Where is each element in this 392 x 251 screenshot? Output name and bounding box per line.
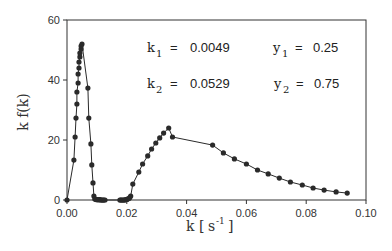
annot-y1-value: 0.25 — [313, 40, 338, 55]
data-point — [76, 71, 81, 76]
x-tick-label: 0.10 — [355, 207, 376, 219]
annot-k2-value: 0.0529 — [190, 76, 230, 91]
x-axis-label-bracket-open: [ — [199, 218, 204, 234]
data-point — [345, 191, 350, 196]
annot-k1-symbol: k — [147, 40, 155, 55]
data-point — [157, 135, 162, 140]
data-point — [334, 189, 339, 194]
y-axis-ticks: 0204060 — [48, 14, 67, 206]
x-tick-label: 0.06 — [236, 207, 257, 219]
annot-y2-eq: = — [296, 76, 304, 91]
data-point — [86, 116, 91, 121]
x-axis-label-exponent: -1 — [216, 216, 225, 226]
data-point — [288, 179, 293, 184]
data-point — [149, 146, 154, 151]
x-axis-label: k [ s -1 ] — [186, 216, 233, 234]
data-point — [277, 176, 282, 181]
annot-y1-symbol: y — [272, 40, 281, 55]
data-series — [64, 41, 349, 202]
annotation-y2: y 2 = 0.75 — [273, 76, 339, 95]
data-point — [88, 141, 93, 146]
data-point — [130, 182, 135, 187]
x-axis-label-unit: s — [208, 218, 215, 234]
annotation-y1: y 1 = 0.25 — [272, 40, 338, 59]
data-point — [140, 161, 145, 166]
y-tick-label: 0 — [54, 194, 60, 206]
data-point — [73, 134, 78, 139]
x-axis-label-bracket-close: ] — [228, 218, 233, 234]
annot-k2-sub: 2 — [156, 84, 162, 95]
annot-y2-symbol: y — [273, 76, 282, 91]
data-point — [76, 59, 81, 64]
data-point — [71, 158, 76, 163]
data-point — [244, 161, 249, 166]
annot-y1-sub: 1 — [282, 48, 288, 59]
annot-y2-value: 0.75 — [314, 76, 339, 91]
annot-k1-value: 0.0049 — [190, 40, 230, 55]
data-point — [128, 194, 133, 199]
data-point — [76, 80, 81, 85]
data-point — [166, 125, 171, 130]
data-point — [232, 156, 237, 161]
data-point — [322, 188, 327, 193]
data-point — [89, 162, 94, 167]
data-point — [76, 65, 81, 70]
x-axis-label-k: k — [186, 218, 195, 234]
annot-k2-symbol: k — [147, 76, 155, 91]
annotation-k1: k 1 = 0.0049 — [147, 40, 230, 59]
data-point — [266, 171, 271, 176]
data-point — [311, 185, 316, 190]
data-point — [161, 131, 166, 136]
y-axis-label: k f(k) — [15, 93, 31, 131]
y-tick-label: 60 — [48, 14, 60, 26]
data-point — [210, 143, 215, 148]
data-point — [90, 180, 95, 185]
data-point — [102, 197, 107, 202]
data-point — [74, 89, 79, 94]
y-tick-label: 40 — [48, 74, 60, 86]
y-tick-label: 20 — [48, 134, 60, 146]
annot-k1-eq: = — [170, 40, 178, 55]
series-line — [67, 44, 347, 200]
data-point — [136, 170, 141, 175]
annotation-k2: k 2 = 0.0529 — [147, 76, 230, 95]
data-point — [74, 101, 79, 106]
data-point — [73, 116, 78, 121]
annot-k2-eq: = — [170, 76, 178, 91]
data-point — [300, 182, 305, 187]
data-point — [85, 86, 90, 91]
data-point — [255, 167, 260, 172]
chart: 0.000.020.040.060.080.10 0204060 k [ s -… — [0, 0, 392, 251]
annot-y2-sub: 2 — [283, 84, 289, 95]
x-tick-label: 0.02 — [116, 207, 137, 219]
data-point — [64, 197, 69, 202]
x-tick-label: 0.00 — [56, 207, 77, 219]
data-point — [170, 134, 175, 139]
data-point — [221, 150, 226, 155]
data-point — [79, 41, 84, 46]
annot-k1-sub: 1 — [156, 48, 162, 59]
data-point — [153, 140, 158, 145]
annot-y1-eq: = — [295, 40, 303, 55]
annotation-block: k 1 = 0.0049 y 1 = 0.25 k 2 = 0.0529 y 2… — [147, 40, 339, 95]
data-point — [145, 153, 150, 158]
x-tick-label: 0.08 — [295, 207, 316, 219]
